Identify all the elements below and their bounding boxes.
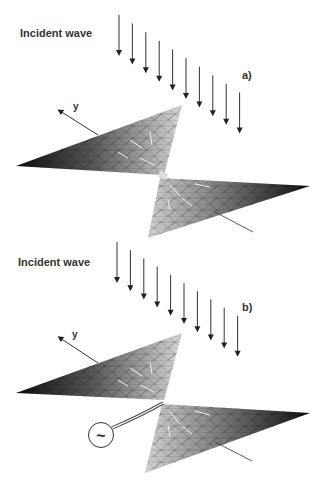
- panel-a: Incident wave a) y: [16, 15, 310, 238]
- upper-arm-mesh: [16, 333, 182, 400]
- wave-arrow-head: [116, 50, 122, 56]
- incident-wave-arrows: [116, 15, 243, 133]
- y-axis-label: y: [73, 101, 79, 112]
- lower-arm-mesh: [145, 404, 310, 473]
- x-axis-line: [215, 442, 252, 461]
- wave-arrow-head: [208, 334, 214, 340]
- y-axis-arrow: [60, 111, 98, 135]
- wave-arrow-head: [114, 277, 120, 283]
- wave-arrow-head: [183, 93, 189, 99]
- y-axis-arrow: [60, 338, 98, 363]
- wave-arrow-head: [168, 310, 174, 316]
- panel-label: b): [242, 301, 253, 313]
- source-symbol: ~: [96, 427, 105, 444]
- panel-b: Incident wave b) y ~: [16, 242, 310, 473]
- wave-arrow-head: [221, 343, 227, 349]
- panel-label: a): [242, 69, 252, 81]
- wave-arrow-head: [235, 351, 241, 357]
- y-axis-label: y: [72, 329, 78, 340]
- wave-arrow-head: [127, 285, 133, 291]
- x-axis-line: [215, 212, 253, 232]
- wave-arrow-head: [210, 110, 216, 116]
- wave-arrow-head: [194, 326, 200, 332]
- wave-arrow-head: [154, 302, 160, 308]
- wave-arrow-head: [156, 76, 162, 82]
- incident-wave-label: Incident wave: [18, 256, 90, 268]
- upper-arm-mesh: [16, 105, 182, 175]
- incident-wave-label: Incident wave: [20, 27, 92, 39]
- wave-arrow-head: [196, 102, 202, 108]
- wave-arrow-head: [181, 318, 187, 324]
- wave-arrow-head: [129, 59, 135, 65]
- wave-arrow-head: [237, 127, 243, 133]
- bowtie-antenna-diagram: Incident wave a) y Incident wave b) y: [0, 0, 326, 485]
- wave-arrow-head: [223, 119, 229, 125]
- wave-arrow-head: [170, 84, 176, 90]
- wave-arrow-head: [141, 293, 147, 299]
- wave-arrow-head: [143, 67, 149, 73]
